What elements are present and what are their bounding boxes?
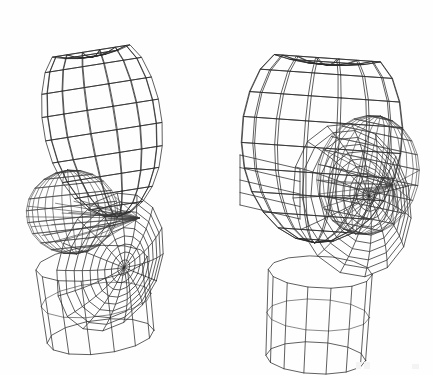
skull-latitude <box>46 122 162 140</box>
jaw-panel-row <box>240 205 300 219</box>
face-ball-longitude <box>68 170 77 254</box>
neck-rule <box>366 275 373 361</box>
skull-longitude <box>253 55 327 243</box>
skull-latitude <box>42 77 152 94</box>
skull-longitude <box>314 59 338 243</box>
scan-artifact <box>356 362 361 369</box>
neck-mid-ring <box>267 299 370 331</box>
skull-latitude <box>42 99 158 117</box>
neck-rule <box>270 277 273 363</box>
skull-latitude <box>260 69 392 78</box>
skull-longitude <box>42 57 118 217</box>
scan-artifacts <box>356 362 419 369</box>
neck-top-ring <box>268 256 372 288</box>
face-disc-spoke <box>124 207 153 267</box>
model-head-right-side-view <box>240 54 419 374</box>
neck-rule <box>266 269 268 355</box>
skull-latitude <box>53 146 163 163</box>
wireframe-figure-canvas <box>0 0 433 375</box>
jaw-panel-row <box>240 180 300 194</box>
skull-latitude <box>75 186 153 198</box>
neck-rule <box>36 270 47 343</box>
face-disc-spoke <box>301 196 369 230</box>
neck-rule <box>147 256 154 330</box>
face-disc-spoke <box>369 196 404 247</box>
scan-artifact <box>364 362 370 369</box>
face-ball-longitude <box>28 170 76 254</box>
scan-artifact <box>412 364 419 369</box>
wireframe-svg <box>0 0 433 375</box>
skull-longitude <box>47 57 117 217</box>
neck-bottom-ring <box>266 342 366 374</box>
model-head-left-rear-view <box>26 45 163 355</box>
skull-longitude <box>47 57 117 217</box>
face-disc-spoke <box>124 268 128 323</box>
converge-spoke <box>392 185 418 186</box>
jaw-panel-row <box>240 155 300 169</box>
neck-rule <box>42 277 53 350</box>
neck-bottom-ring <box>47 319 154 355</box>
skull-latitude <box>249 92 399 103</box>
